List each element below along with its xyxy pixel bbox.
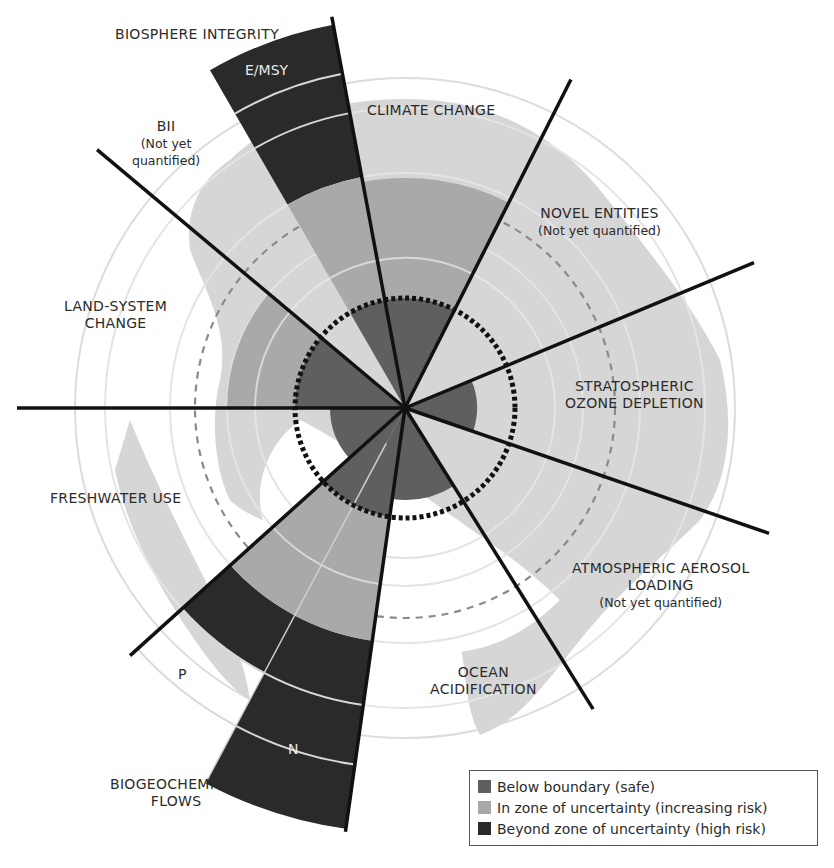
label-bii: BII (Not yet quantified) — [132, 118, 200, 169]
label-n: N — [288, 741, 298, 757]
legend: Below boundary (safe) In zone of uncerta… — [469, 770, 818, 846]
bii-note-line2: quantified) — [132, 152, 200, 169]
legend-label-high: Beyond zone of uncertainty (high risk) — [497, 821, 766, 837]
swatch-safe-icon — [478, 780, 491, 793]
legend-label-safe: Below boundary (safe) — [497, 779, 655, 795]
legend-item-high: Beyond zone of uncertainty (high risk) — [478, 818, 809, 839]
label-stratospheric-ozone: STRATOSPHERIC OZONE DEPLETION — [565, 378, 704, 412]
label-biosphere-integrity: BIOSPHERE INTEGRITY — [115, 26, 279, 43]
ozone-line2: OZONE DEPLETION — [565, 395, 704, 411]
bii-title: BII — [157, 118, 176, 134]
label-emsy: E/MSY — [245, 62, 288, 78]
planetary-boundaries-diagram: BIOSPHERE INTEGRITY E/MSY BII (Not yet q… — [0, 0, 834, 868]
bgc-line2: FLOWS — [151, 793, 202, 809]
label-freshwater-use: FRESHWATER USE — [50, 490, 181, 507]
novel-title: NOVEL ENTITIES — [540, 205, 659, 221]
aerosol-line1: ATMOSPHERIC AEROSOL — [572, 560, 750, 576]
ocean-line2: ACIDIFICATION — [430, 681, 537, 697]
swatch-high-icon — [478, 822, 491, 835]
ocean-line1: OCEAN — [458, 664, 509, 680]
polar-chart — [0, 0, 834, 868]
legend-item-uncertain: In zone of uncertainty (increasing risk) — [478, 797, 809, 818]
swatch-uncertain-icon — [478, 801, 491, 814]
land-line2: CHANGE — [85, 315, 147, 331]
novel-note: (Not yet quantified) — [538, 222, 661, 239]
aerosol-line2: LOADING — [628, 577, 694, 593]
label-ocean-acidification: OCEAN ACIDIFICATION — [430, 664, 537, 698]
label-climate-change: CLIMATE CHANGE — [367, 102, 495, 119]
label-land-system-change: LAND-SYSTEM CHANGE — [64, 298, 167, 332]
bgc-line1: BIOGEOCHEMICAL — [110, 776, 242, 792]
label-novel-entities: NOVEL ENTITIES (Not yet quantified) — [538, 205, 661, 239]
label-atmospheric-aerosol: ATMOSPHERIC AEROSOL LOADING (Not yet qua… — [572, 560, 750, 611]
ozone-line1: STRATOSPHERIC — [575, 378, 694, 394]
land-line1: LAND-SYSTEM — [64, 298, 167, 314]
bii-note-line1: (Not yet — [132, 135, 200, 152]
legend-label-uncertain: In zone of uncertainty (increasing risk) — [497, 800, 768, 816]
aerosol-note: (Not yet quantified) — [572, 594, 750, 611]
legend-item-safe: Below boundary (safe) — [478, 776, 809, 797]
label-p: P — [178, 666, 187, 683]
label-biogeochemical-flows: BIOGEOCHEMICAL FLOWS — [110, 776, 242, 810]
